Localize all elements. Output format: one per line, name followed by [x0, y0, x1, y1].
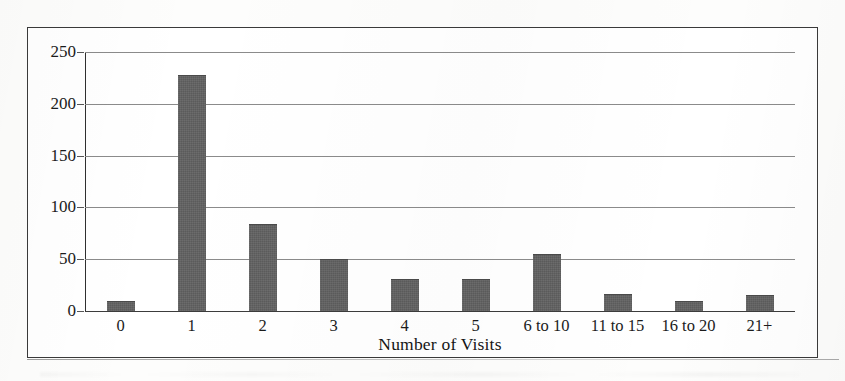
- bar: [604, 294, 632, 311]
- bar: [533, 254, 561, 311]
- y-tick-mark-150: [77, 156, 84, 157]
- y-tick-label-50: 50: [59, 250, 76, 267]
- y-tick-mark-200: [77, 104, 84, 105]
- y-tick-label-200: 200: [51, 95, 77, 112]
- bar: [675, 301, 703, 311]
- bar: [320, 259, 348, 311]
- gridline-0: [85, 311, 795, 312]
- bar: [178, 75, 206, 311]
- y-axis-tick-labels: 050100150200250: [40, 0, 76, 381]
- y-tick-mark-250: [77, 52, 84, 53]
- bar: [107, 301, 135, 311]
- scan-artifact-smudge: [40, 372, 800, 377]
- plot-area: [85, 52, 795, 311]
- bar-series: [85, 52, 795, 311]
- scan-artifact-line: [27, 359, 839, 360]
- y-tick-label-150: 150: [51, 147, 77, 164]
- scanned-page: 050100150200250 0123456 to 1011 to 1516 …: [0, 0, 845, 381]
- bar: [746, 295, 774, 311]
- y-tick-mark-0: [77, 311, 84, 312]
- y-tick-label-100: 100: [51, 198, 77, 215]
- bar: [249, 224, 277, 311]
- bar: [391, 279, 419, 311]
- y-tick-mark-50: [77, 259, 84, 260]
- y-tick-mark-100: [77, 207, 84, 208]
- y-tick-label-0: 0: [68, 302, 77, 319]
- x-axis-title: Number of Visits: [85, 334, 795, 355]
- y-tick-label-250: 250: [51, 43, 77, 60]
- bar: [462, 279, 490, 311]
